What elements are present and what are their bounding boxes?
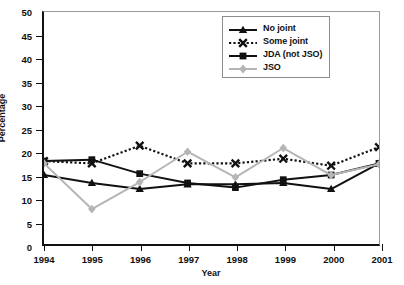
legend-item-1: Some joint xyxy=(228,34,322,47)
x-axis-tick xyxy=(141,244,142,251)
legend-key-diamond-icon xyxy=(228,61,258,73)
y-axis-tick-label: 10 xyxy=(21,195,32,206)
data-point-diamond xyxy=(280,144,288,153)
x-axis-tick-label: 1994 xyxy=(33,254,54,265)
x-axis-tick-label: 1998 xyxy=(227,254,248,265)
y-axis-tick-label: 15 xyxy=(21,171,32,182)
legend-label: Some joint xyxy=(263,36,308,46)
x-axis-tick-label: 1996 xyxy=(130,254,151,265)
y-axis-tick-label: 40 xyxy=(21,54,32,65)
data-point-square xyxy=(88,156,95,163)
x-axis-tick-label: 2000 xyxy=(323,254,344,265)
x-axis-tick xyxy=(92,244,93,251)
y-axis-tick xyxy=(36,59,43,60)
legend-item-0: No joint xyxy=(228,21,322,34)
data-point-x xyxy=(280,155,288,163)
legend-label: JSO xyxy=(263,62,281,72)
y-axis-tick xyxy=(36,83,43,84)
data-point-square xyxy=(136,170,143,177)
legend-key-triangle-icon xyxy=(228,22,258,34)
y-axis-tick-label: 45 xyxy=(21,30,32,41)
x-axis-tick xyxy=(285,244,286,251)
data-point-square xyxy=(240,52,247,59)
data-point-square xyxy=(280,176,287,183)
x-axis-tick-label: 1999 xyxy=(275,254,296,265)
x-axis-tick-label: 1995 xyxy=(82,254,103,265)
data-point-square xyxy=(232,184,239,191)
y-axis-tick xyxy=(36,130,43,131)
y-axis-tick-label: 50 xyxy=(21,7,32,18)
x-axis-tick xyxy=(44,244,45,251)
legend-key-square-icon xyxy=(228,48,258,60)
y-axis-tick xyxy=(36,153,43,154)
y-axis-tick xyxy=(36,224,43,225)
y-axis-tick xyxy=(36,177,43,178)
legend-key-x-icon xyxy=(228,35,258,47)
y-axis-label: Percentage xyxy=(0,94,7,143)
series-3 xyxy=(44,144,379,214)
data-point-x xyxy=(375,143,379,151)
chart-legend: No jointSome jointJDA (not JSO)JSO xyxy=(222,16,330,78)
y-axis-tick xyxy=(36,200,43,201)
x-axis-tick-label: 1997 xyxy=(178,254,199,265)
chart-figure: Percentage 05101520253035404550199419951… xyxy=(0,0,404,285)
x-axis-tick xyxy=(334,244,335,251)
data-point-square xyxy=(184,180,191,187)
y-axis-tick-label: 35 xyxy=(21,77,32,88)
y-axis-tick xyxy=(36,106,43,107)
x-axis-tick xyxy=(237,244,238,251)
data-point-triangle xyxy=(44,171,48,178)
data-point-diamond xyxy=(239,64,247,73)
legend-item-3: JSO xyxy=(228,60,322,73)
data-point-x xyxy=(239,39,247,47)
y-axis-tick-label: 5 xyxy=(27,218,32,229)
y-axis-tick xyxy=(36,36,43,37)
x-axis-tick xyxy=(189,244,190,251)
x-axis-label: Year xyxy=(42,268,380,278)
data-point-x xyxy=(184,160,192,168)
y-axis-tick-label: 0 xyxy=(27,242,32,253)
data-point-x xyxy=(232,160,240,168)
y-axis-tick-label: 20 xyxy=(21,148,32,159)
data-point-diamond xyxy=(184,147,192,156)
y-axis-tick-label: 25 xyxy=(21,124,32,135)
x-axis-tick xyxy=(382,244,383,251)
x-axis-tick-label: 2001 xyxy=(371,254,392,265)
legend-label: No joint xyxy=(263,23,296,33)
y-axis-tick-label: 30 xyxy=(21,101,32,112)
legend-item-2: JDA (not JSO) xyxy=(228,47,322,60)
data-point-diamond xyxy=(232,173,240,182)
data-point-diamond xyxy=(136,178,144,187)
legend-label: JDA (not JSO) xyxy=(263,49,322,59)
